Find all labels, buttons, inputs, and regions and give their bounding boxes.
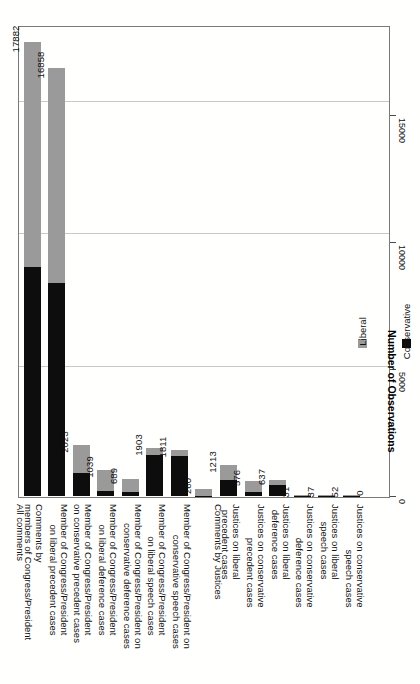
bar-value-label: 637 (267, 469, 278, 485)
category-label: Justices on liberalspeech cases (319, 504, 341, 580)
bar-value-label: 17882 (21, 25, 32, 52)
bar-column: 0 (363, 28, 388, 496)
bar-value-label: 1811 (168, 437, 179, 458)
bar-column: 260 (192, 28, 217, 496)
bar-segment-conservative (195, 496, 212, 497)
bar-series-container: 1788216858202310396891903181126012135766… (20, 28, 388, 496)
category-label: Member of Congress/President onconservat… (171, 504, 193, 649)
stacked-bar[interactable]: 260 (195, 489, 212, 496)
stacked-bar[interactable]: 689 (122, 479, 139, 497)
bar-column: 16858 (45, 28, 70, 496)
legend-label: Conservative (401, 304, 412, 359)
bar-value-label: 0 (365, 490, 376, 495)
axis-tick (390, 115, 396, 116)
bar-value-label: 37 (316, 487, 327, 498)
category-label: Justices on liberaldeference cases (270, 504, 292, 580)
bar-value-label: 576 (242, 470, 253, 486)
category-label-cell: Justices on conservativespeech cases (364, 502, 389, 684)
chart-legend: ConservativeLiberal (348, 300, 420, 348)
axis-tick-label: 10000 (397, 245, 407, 270)
bar-column: 576 (241, 28, 266, 496)
axis-tick-label: 0 (397, 499, 407, 504)
bar-column: 1213 (216, 28, 241, 496)
axis-tick-label: 15000 (397, 118, 407, 143)
bar-value-label: 2023 (70, 431, 81, 453)
bar-segment-conservative (97, 491, 114, 496)
chart-figure: 1788216858202310396891903181126012135766… (0, 0, 420, 684)
category-label: Justices on liberalprecedent cases (220, 504, 242, 580)
bar-column: 37 (314, 28, 339, 496)
bar-value-label: 1213 (218, 451, 229, 473)
bar-segment-conservative (245, 492, 262, 496)
bar-value-label: 1039 (95, 456, 106, 478)
category-label: Justices on conservativedeference cases (294, 504, 316, 608)
bar-segment-liberal (48, 68, 65, 283)
category-label: Member of Congress/President onconservat… (122, 504, 144, 649)
bar-column: 31 (290, 28, 315, 496)
stacked-bar[interactable]: 17882 (24, 42, 41, 496)
bar-value-label: 52 (340, 486, 351, 497)
plot-area: 1788216858202310396891903181126012135766… (18, 26, 390, 498)
category-label: Member of Congress/Presidenton liberal d… (97, 504, 119, 635)
bar-column: 1039 (94, 28, 119, 496)
bar-column: 2023 (69, 28, 94, 496)
legend-item[interactable]: Liberal (348, 300, 377, 348)
axis-tick-label: 5000 (397, 372, 407, 392)
bar-column: 1811 (167, 28, 192, 496)
bar-column: 637 (265, 28, 290, 496)
value-axis-title: Number of Observations (386, 330, 398, 453)
category-label: Member of Congress/Presidenton conservat… (72, 504, 94, 643)
bar-segment-conservative (48, 283, 65, 496)
category-label: Member of Congress/Presidenton liberal s… (146, 504, 168, 635)
bar-value-label: 689 (119, 467, 130, 483)
bar-column: 1903 (143, 28, 168, 496)
legend-item[interactable]: Conservative (379, 300, 420, 348)
axis-tick (390, 242, 396, 243)
category-label: Member of Congress/Presidenton liberal p… (48, 504, 70, 635)
bar-column: 17882 (20, 28, 45, 496)
bar-value-label: 16858 (46, 51, 57, 78)
bar-segment-conservative (146, 455, 163, 496)
bar-column: 52 (339, 28, 364, 496)
bar-value-label: 260 (193, 478, 204, 494)
bar-segment-conservative (122, 492, 139, 496)
axis-tick (390, 496, 396, 497)
category-label: Justices on conservativespeech cases (344, 504, 366, 608)
category-label: Justices on conservativeprecedent cases (245, 504, 267, 608)
bar-value-label: 1903 (144, 434, 155, 456)
bar-column: 689 (118, 28, 143, 496)
legend-label: Liberal (357, 317, 368, 346)
category-axis-labels: All commentsComments bymembers of Congre… (19, 502, 389, 684)
category-label: Comments bymembers of Congress/President (23, 504, 45, 640)
bar-value-label: 31 (291, 487, 302, 498)
bar-segment-conservative (24, 267, 41, 496)
